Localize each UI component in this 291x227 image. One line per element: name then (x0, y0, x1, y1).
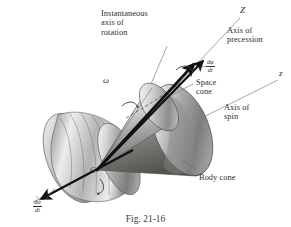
spin-rate-denominator: dt (33, 207, 42, 213)
figure-container: Instantaneous axis of rotation Z Axis of… (0, 0, 291, 227)
omega-sense-arc (122, 102, 138, 108)
axis-of-spin-label: Axis of spin (224, 103, 274, 122)
instantaneous-axis-label: Instantaneous axis of rotation (101, 9, 175, 37)
body-cone-label: Body cone (199, 173, 255, 182)
center-point-label: G (90, 167, 95, 176)
precession-rate-leader (199, 66, 206, 68)
figure-caption: Fig. 21-16 (0, 214, 291, 224)
spin-rate-numerator: dψ (33, 199, 42, 205)
axis-letter-Z: Z (240, 6, 245, 15)
space-cone-label: Space cone (196, 78, 236, 97)
precession-rate-denominator: dt (206, 67, 215, 73)
precession-rate-numerator: dφ (206, 59, 215, 65)
omega-label: ω (103, 76, 109, 85)
axis-of-precession-label: Axis of precession (227, 26, 287, 45)
center-point-marker (96, 169, 99, 172)
axis-letter-z: z (279, 69, 283, 78)
spin-rate-label: dψ dt (33, 199, 42, 214)
precession-rate-label: dφ dt (206, 59, 215, 74)
